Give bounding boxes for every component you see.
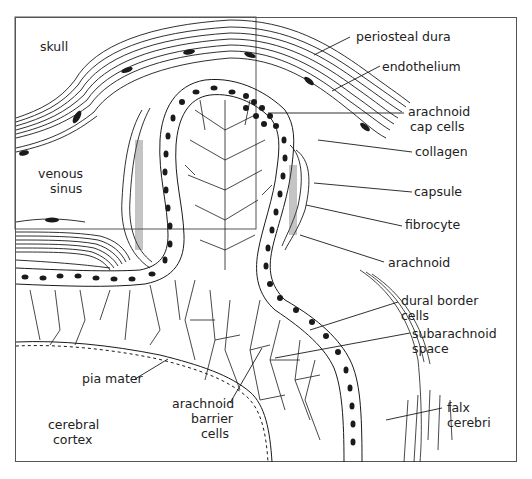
label-collagen: collagen	[415, 145, 468, 159]
label-periosteal-dura: periosteal dura	[356, 30, 451, 44]
border-rect	[16, 18, 517, 462]
label-pia-mater: pia mater	[82, 372, 143, 386]
leader-collagen	[318, 140, 412, 152]
label-falx-cerebri-line2: cerebri	[447, 416, 491, 430]
label-dural-border-cells-line1: dural border	[401, 294, 478, 308]
leader-dural-border	[310, 302, 398, 330]
label-cerebral-cortex-line1: cerebral	[48, 418, 99, 432]
label-arachnoid-cap-cells-line1: arachnoid	[408, 105, 470, 119]
leader-arachnoid	[300, 235, 384, 262]
label-endothelium: endothelium	[382, 60, 461, 74]
lower-dura-left	[16, 219, 130, 270]
label-capsule: capsule	[414, 185, 462, 199]
endothelial-cell	[45, 218, 59, 223]
label-cerebral-cortex-line2: cortex	[53, 433, 92, 447]
label-arachnoid-barrier-cells-line2: barrier	[191, 412, 233, 426]
leader-fibrocyte	[306, 205, 402, 226]
collagen-stipple	[135, 140, 297, 250]
leader-periosteal-dura	[314, 37, 350, 55]
label-fibrocyte: fibrocyte	[405, 218, 460, 232]
capsule	[122, 108, 309, 268]
leader-endothelium	[332, 66, 380, 91]
label-dural-border-cells-line2: cells	[401, 309, 429, 323]
label-arachnoid: arachnoid	[388, 256, 450, 270]
label-skull: skull	[40, 40, 68, 54]
leader-capsule	[314, 183, 412, 192]
label-falx-cerebri-line1: falx	[447, 401, 470, 415]
leader-falx-cerebri	[386, 408, 442, 420]
label-venous-sinus-line2: sinus	[50, 182, 82, 196]
label-subarachnoid-space-line2: space	[412, 342, 449, 356]
label-arachnoid-barrier-cells-line3: cells	[201, 427, 229, 441]
label-arachnoid-barrier-cells-line1: arachnoid	[172, 397, 234, 411]
arachnoid-nuclei	[22, 86, 356, 446]
label-venous-sinus-line1: venous	[38, 167, 83, 181]
label-subarachnoid-space-line1: subarachnoid	[412, 327, 497, 341]
label-arachnoid-cap-cells-line2: cap cells	[410, 120, 464, 134]
leader-subarachnoid	[275, 333, 410, 358]
